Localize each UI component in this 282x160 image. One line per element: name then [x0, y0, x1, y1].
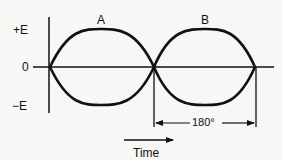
- wave-upper: [50, 29, 255, 67]
- waveform-diagram: [0, 0, 282, 160]
- label-minus-e: −E: [12, 100, 27, 112]
- time-label: Time: [133, 147, 159, 159]
- wave-lower: [50, 67, 255, 105]
- phase-dimension-label: 180°: [192, 117, 215, 128]
- label-plus-e: +E: [13, 24, 28, 36]
- wave-a-label: A: [97, 14, 105, 26]
- label-zero: 0: [22, 61, 29, 73]
- wave-b-label: B: [201, 14, 209, 26]
